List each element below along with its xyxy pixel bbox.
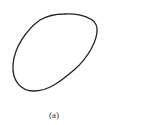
closed-curve-shape — [0, 0, 162, 125]
figure: (a) — [0, 0, 162, 125]
figure-caption: (a) — [44, 110, 64, 120]
